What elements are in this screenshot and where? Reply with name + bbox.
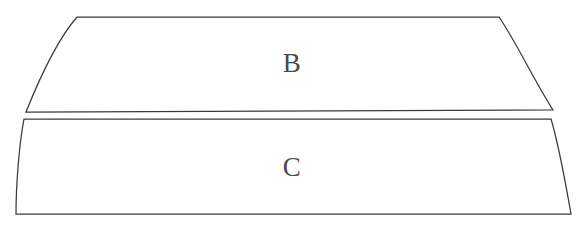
shape-c-label: C bbox=[283, 152, 302, 182]
shape-group-b[interactable]: B bbox=[26, 17, 553, 112]
shape-b-label: B bbox=[283, 48, 302, 78]
figure-canvas: B C bbox=[0, 0, 582, 233]
shape-group-c[interactable]: C bbox=[16, 119, 571, 214]
figure-svg: B C bbox=[0, 0, 582, 233]
